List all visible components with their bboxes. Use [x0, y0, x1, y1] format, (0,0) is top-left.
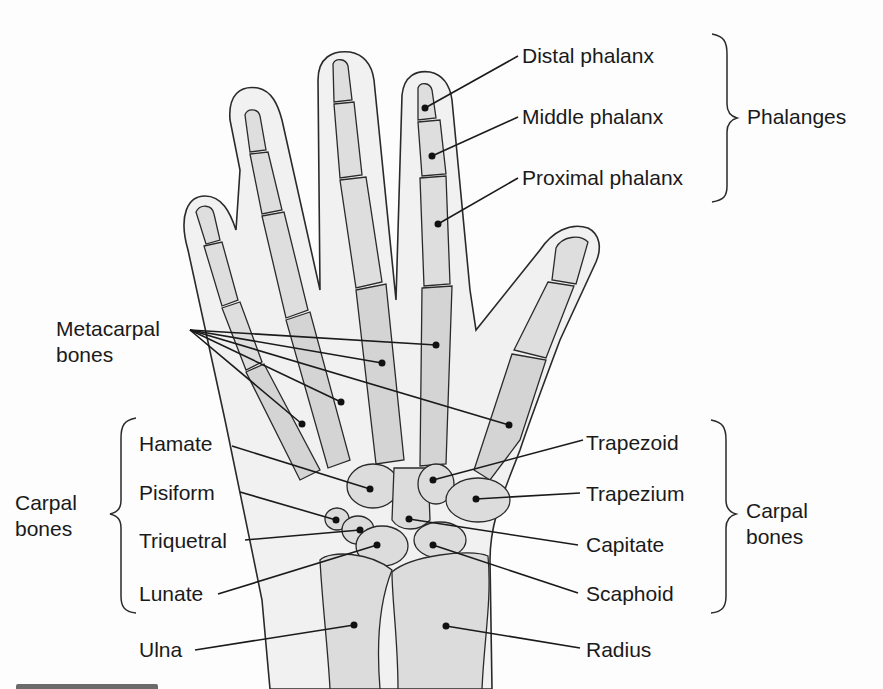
- label-scaphoid: Scaphoid: [586, 582, 674, 606]
- label-ulna: Ulna: [139, 638, 182, 662]
- label-triquetral: Triquetral: [139, 529, 227, 553]
- hand-skeleton-illustration: [0, 0, 883, 689]
- group-label-metacarpal-line2: bones: [56, 342, 113, 368]
- carpal-right-brace: [711, 420, 736, 613]
- label-distal-phalanx: Distal phalanx: [522, 44, 654, 68]
- carpal-left-brace: [110, 418, 136, 613]
- label-proximal-phalanx: Proximal phalanx: [522, 166, 683, 190]
- group-label-carpal-left-line2: bones: [15, 516, 72, 542]
- group-label-carpal-right-line1: Carpal: [746, 498, 808, 524]
- label-capitate: Capitate: [586, 533, 664, 557]
- radius-bone: [392, 553, 489, 689]
- label-trapezoid: Trapezoid: [586, 431, 679, 455]
- label-trapezium: Trapezium: [586, 482, 684, 506]
- caption-bar-edge: [16, 684, 158, 689]
- label-hamate: Hamate: [139, 432, 213, 456]
- group-label-phalanges: Phalanges: [747, 105, 846, 129]
- label-radius: Radius: [586, 638, 651, 662]
- label-lunate: Lunate: [139, 582, 203, 606]
- group-label-carpal-right-line2: bones: [746, 524, 803, 550]
- label-middle-phalanx: Middle phalanx: [522, 105, 663, 129]
- group-label-carpal-left-line1: Carpal: [15, 490, 77, 516]
- label-pisiform: Pisiform: [139, 481, 215, 505]
- phalanges-brace: [712, 34, 737, 202]
- group-label-metacarpal-line1: Metacarpal: [56, 316, 160, 342]
